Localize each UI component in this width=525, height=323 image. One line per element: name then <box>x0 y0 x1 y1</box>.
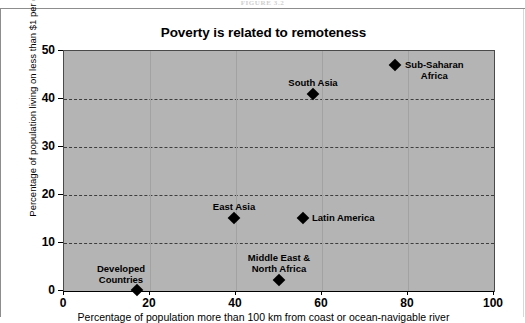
y-tick-label: 50 <box>11 43 55 57</box>
x-tick-mark <box>235 291 236 295</box>
x-tick-mark <box>149 291 150 295</box>
data-label-line1: Sub-Saharan <box>405 59 464 70</box>
x-tick-mark <box>63 291 64 295</box>
vgridline-40 <box>236 51 237 291</box>
data-point-east-asia[interactable] <box>228 212 241 225</box>
x-axis-title: Percentage of population more than 100 k… <box>1 311 525 323</box>
x-tick-mark <box>321 291 322 295</box>
data-label-line1: Latin America <box>312 212 374 223</box>
data-label-latin-america: Latin America <box>312 212 374 223</box>
data-label-south-asia: South Asia <box>288 77 337 88</box>
data-label-line1: South Asia <box>288 77 337 88</box>
x-axis-line <box>63 291 494 292</box>
x-tick-label: 60 <box>314 296 327 310</box>
gridline-20 <box>64 195 494 196</box>
x-tick-mark <box>493 291 494 295</box>
vgridline-20 <box>150 51 151 291</box>
data-point-latin-america[interactable] <box>297 212 310 225</box>
data-point-sub-saharan-africa[interactable] <box>389 59 402 72</box>
gridline-40 <box>64 99 494 100</box>
data-label-line1: Middle East & <box>248 252 310 263</box>
x-tick-mark <box>407 291 408 295</box>
y-tick-label: 10 <box>11 235 55 249</box>
data-label-east-asia: East Asia <box>213 201 255 212</box>
data-label-line2: Africa <box>421 70 448 81</box>
data-point-middle-east-north-africa[interactable] <box>273 274 286 287</box>
vgridline-80 <box>408 51 409 291</box>
x-tick-label: 0 <box>60 296 67 310</box>
x-tick-label: 80 <box>400 296 413 310</box>
figure-frame: Poverty is related to remoteness Percent… <box>0 9 524 317</box>
x-tick-label: 20 <box>142 296 155 310</box>
gridline-10 <box>64 243 494 244</box>
data-label-line2: North Africa <box>252 263 307 274</box>
y-tick-label: 20 <box>11 187 55 201</box>
y-tick-label: 30 <box>11 139 55 153</box>
chart-title: Poverty is related to remoteness <box>1 25 525 40</box>
y-tick-label: 40 <box>11 91 55 105</box>
plot-area: Sub-Saharan Africa South Asia East Asia … <box>63 50 495 292</box>
data-point-developed-countries[interactable] <box>131 284 144 297</box>
data-label-line2: Countries <box>99 274 143 285</box>
data-label-sub-saharan-africa: Sub-Saharan Africa <box>405 59 464 81</box>
data-label-line1: East Asia <box>213 201 255 212</box>
data-label-line1: Developed <box>97 263 145 274</box>
gridline-30 <box>64 147 494 148</box>
data-label-developed-countries: Developed Countries <box>97 263 145 285</box>
figure-header: FIGURE 3.2 <box>0 0 525 7</box>
x-tick-label: 40 <box>228 296 241 310</box>
x-tick-label: 100 <box>483 296 503 310</box>
y-tick-label: 0 <box>11 283 55 297</box>
data-label-middle-east-north-africa: Middle East & North Africa <box>248 252 310 274</box>
